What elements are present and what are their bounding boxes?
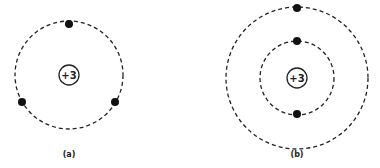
caption-b: (b) <box>290 150 303 159</box>
caption-a: (a) <box>63 150 76 159</box>
nucleus-a-charge: +3 <box>61 70 76 81</box>
electron-b-2 <box>293 37 301 45</box>
electron-b-1 <box>293 4 301 12</box>
electron-a-2 <box>18 98 26 106</box>
diagram-a: +3 (a) <box>15 20 123 159</box>
electron-a-1 <box>65 20 73 28</box>
diagram-b: +3 (b) <box>226 4 368 159</box>
electron-a-3 <box>111 98 119 106</box>
atom-diagrams: +3 (a) +3 (b) <box>0 0 380 168</box>
nucleus-b-charge: +3 <box>289 73 304 84</box>
electron-b-3 <box>293 110 301 118</box>
